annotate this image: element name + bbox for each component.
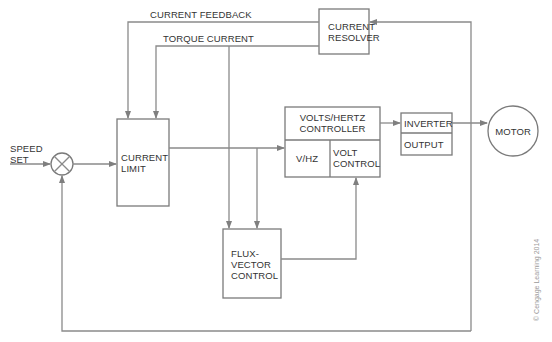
volt-control-label: VOLT CONTROL [333,147,380,169]
current-feedback-label: CURRENT FEEDBACK [150,9,252,20]
limit-line-2: LIMIT [121,163,168,174]
vhz-label: V/HZ [296,153,318,164]
vhz-title-line-2: CONTROLLER [285,123,380,134]
flux-line-1: FLUX- [231,248,278,259]
flux-line-3: CONTROL [231,270,278,281]
resolver-line-1: CURRENT [328,21,380,32]
motor-label: MOTOR [488,126,538,137]
summing-junction-icon [51,153,73,175]
flux-vector-label: FLUX- VECTOR CONTROL [231,248,278,281]
speed-set-label: SPEED SET [10,143,43,165]
torque-current-label: TORQUE CURRENT [163,33,254,44]
limit-line-1: CURRENT [121,152,168,163]
speed-set-line-1: SPEED [10,143,43,154]
motor-to-resolver-arrow [370,22,471,331]
inverter-label: INVERTER [404,118,453,129]
resolver-line-2: RESOLVER [328,32,380,43]
volt-control-line-2: CONTROL [333,158,380,169]
current-limit-label: CURRENT LIMIT [121,152,168,174]
vhz-title-line-1: VOLTS/HERTZ [285,112,380,123]
output-label: OUTPUT [404,139,444,150]
flux-line-2: VECTOR [231,259,278,270]
flux-to-volt-control-arrow [281,178,356,259]
block-diagram-canvas [0,0,552,342]
vhz-controller-title: VOLTS/HERTZ CONTROLLER [285,112,380,134]
current-resolver-label: CURRENT RESOLVER [328,21,380,43]
speed-set-line-2: SET [10,154,43,165]
copyright-notice: © Cengage Learning 2014 [533,239,540,321]
volt-control-line-1: VOLT [333,147,380,158]
